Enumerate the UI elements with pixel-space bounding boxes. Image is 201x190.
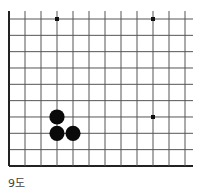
go-board-diagram [0, 0, 201, 172]
black-stone-icon [49, 109, 64, 124]
black-stone-icon [49, 126, 64, 141]
diagram-caption: 9도 [8, 174, 25, 190]
black-stone-icon [65, 126, 80, 141]
star-point-icon [55, 17, 59, 21]
star-point-icon [151, 115, 155, 119]
star-point-icon [151, 17, 155, 21]
